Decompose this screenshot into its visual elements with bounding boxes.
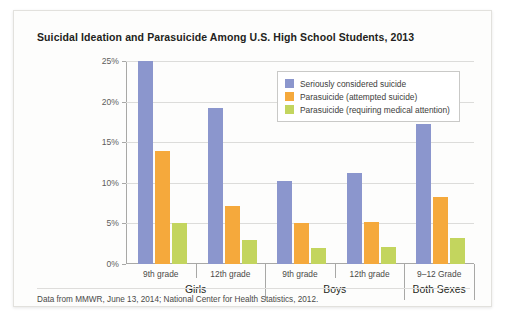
x-group-label: Boys xyxy=(265,284,404,295)
bar xyxy=(347,173,362,264)
x-tick-label: 9th grade xyxy=(126,269,196,279)
x-tick-label: 12th grade xyxy=(196,269,266,279)
plot-area: 0%5%10%15%20%25% Seriously considered su… xyxy=(126,61,474,264)
x-tick-separator xyxy=(335,264,336,278)
x-group-label: Girls xyxy=(126,284,265,295)
bar xyxy=(225,206,240,264)
bar xyxy=(242,240,257,264)
bar-cluster xyxy=(136,61,196,264)
y-tick-label: 5% xyxy=(107,218,119,228)
x-group-label: Both Sexes xyxy=(404,284,474,295)
legend-item: Seriously considered suicide xyxy=(285,77,450,90)
chart-title: Suicidal Ideation and Parasuicide Among … xyxy=(37,31,414,43)
source-note: Data from MMWR, June 13, 2014; National … xyxy=(37,295,318,304)
bar xyxy=(416,124,431,264)
bar xyxy=(138,61,153,264)
bar xyxy=(433,197,448,264)
x-tick-label: 12th grade xyxy=(335,269,405,279)
chart-figure-card: Suicidal Ideation and Parasuicide Among … xyxy=(13,10,492,307)
legend-swatch xyxy=(285,79,294,88)
x-tick-label: 9–12 Grade xyxy=(404,269,474,279)
x-axis-end-tick xyxy=(474,264,475,300)
bar xyxy=(172,223,187,264)
bar xyxy=(277,181,292,264)
y-tick-label: 20% xyxy=(102,97,119,107)
x-tick-label: 9th grade xyxy=(265,269,335,279)
x-tick-separator xyxy=(196,264,197,278)
footer-divider xyxy=(37,288,470,289)
y-tick-label: 15% xyxy=(102,137,119,147)
bar xyxy=(311,248,326,264)
legend-swatch xyxy=(285,105,294,114)
chart-legend: Seriously considered suicideParasuicide … xyxy=(277,71,460,122)
bar xyxy=(208,108,223,264)
bar xyxy=(450,238,465,264)
legend-item: Parasuicide (attempted suicide) xyxy=(285,90,450,103)
y-tick-label: 10% xyxy=(102,178,119,188)
y-tick-label: 25% xyxy=(102,56,119,66)
legend-label: Parasuicide (attempted suicide) xyxy=(300,92,417,102)
bar xyxy=(155,151,170,264)
legend-item: Parasuicide (requiring medical attention… xyxy=(285,103,450,116)
x-group-separator xyxy=(404,264,405,300)
bar xyxy=(294,223,309,264)
bar xyxy=(381,247,396,264)
bar xyxy=(364,222,379,264)
bar-cluster xyxy=(206,61,266,264)
legend-label: Seriously considered suicide xyxy=(300,79,406,89)
legend-swatch xyxy=(285,92,294,101)
y-tick-label: 0% xyxy=(107,259,119,269)
legend-label: Parasuicide (requiring medical attention… xyxy=(300,105,450,115)
